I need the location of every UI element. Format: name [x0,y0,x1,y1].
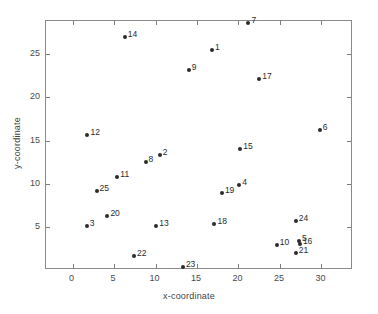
data-point-label: 14 [128,30,137,39]
y-tick-mark [347,184,351,185]
x-tick-label: 25 [274,273,284,283]
data-point [318,128,322,132]
x-tick-mark [280,21,281,25]
y-tick-mark [347,141,351,142]
data-point-label: 15 [243,142,252,151]
data-point-label: 10 [280,238,289,247]
y-tick-label: 5 [23,221,40,231]
data-point-label: 19 [225,186,234,195]
y-axis-title: y-coordinate [12,98,22,188]
data-point-label: 21 [299,246,308,255]
y-tick-label: 25 [23,48,40,58]
x-tick-mark [321,264,322,268]
x-tick-mark [197,264,198,268]
data-point-label: 18 [217,217,226,226]
x-tick-mark [114,21,115,25]
data-point [246,21,250,25]
data-point [144,160,148,164]
y-tick-mark [46,227,50,228]
data-point [212,222,216,226]
data-point [181,265,185,269]
data-point [123,35,127,39]
data-point-label: 23 [186,260,195,269]
data-point [257,77,261,81]
x-tick-label: 20 [232,273,242,283]
x-tick-mark [114,264,115,268]
data-point [237,183,241,187]
y-tick-label: 10 [23,178,40,188]
x-tick-mark [238,21,239,25]
data-point [275,243,279,247]
x-tick-mark [238,264,239,268]
data-point-label: 20 [110,209,119,218]
data-point [187,68,191,72]
y-tick-label: 20 [23,91,40,101]
data-point-label: 11 [120,170,129,179]
data-point-label: 9 [192,63,197,72]
x-tick-mark [156,264,157,268]
data-point-label: 4 [242,178,247,187]
data-point [95,189,99,193]
y-tick-mark [347,54,351,55]
data-point [294,251,298,255]
data-point [85,133,89,137]
x-tick-label: 30 [315,273,325,283]
data-point-label: 1 [215,43,220,52]
x-tick-label: 5 [111,273,116,283]
data-point-label: 12 [90,128,99,137]
data-point [220,191,224,195]
data-point [158,153,162,157]
data-point-label: 24 [299,214,308,223]
scatter-plot-figure: 1234567891011121314151617181920212223242… [0,0,378,314]
y-tick-mark [46,54,50,55]
x-axis-title: x-coordinate [0,291,378,301]
data-point-label: 8 [149,155,154,164]
data-point-label: 7 [251,16,256,25]
x-tick-mark [73,264,74,268]
data-point [85,224,89,228]
data-point-label: 3 [90,219,95,228]
x-tick-label: 10 [150,273,160,283]
y-tick-mark [46,97,50,98]
y-tick-mark [46,184,50,185]
x-tick-mark [73,21,74,25]
x-tick-mark [280,264,281,268]
data-point [115,175,119,179]
data-point-label: 17 [262,72,271,81]
x-tick-mark [321,21,322,25]
plot-area: 1234567891011121314151617181920212223242… [45,20,352,269]
data-point [132,254,136,258]
y-tick-mark [347,227,351,228]
x-tick-mark [156,21,157,25]
data-point [105,214,109,218]
data-point [294,219,298,223]
x-tick-label: 0 [69,273,74,283]
y-tick-mark [46,141,50,142]
data-point-label: 13 [159,219,168,228]
data-point-label: 6 [323,123,328,132]
data-point-label: 2 [163,148,168,157]
data-point-label: 22 [137,249,146,258]
data-point [238,147,242,151]
x-tick-label: 15 [191,273,201,283]
y-tick-label: 15 [23,135,40,145]
y-tick-mark [347,97,351,98]
x-tick-mark [197,21,198,25]
data-point-label: 25 [100,184,109,193]
data-point [210,48,214,52]
data-point [154,224,158,228]
